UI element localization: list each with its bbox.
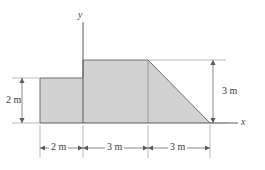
x-axis-label: x [241,117,245,127]
composite-area-fill [40,60,210,123]
shaded-area-group [40,60,210,123]
left-height-label: 2 m [6,95,21,105]
arrowhead-right-segment-1 [78,145,83,150]
arrowhead-left-segment-1 [40,145,45,150]
arrowhead-down-left [19,118,24,123]
arrowhead-up-right [210,60,215,65]
y-axis-label: y [78,10,82,20]
right-height-label: 3 m [222,86,237,96]
arrowhead-left-segment-2 [83,145,88,150]
arrowhead-right-segment-3 [205,145,210,150]
segment-3-label: 3 m [168,142,187,152]
arrowhead-right-segment-2 [143,145,148,150]
segment-2-label: 3 m [105,142,124,152]
arrowhead-left-segment-3 [148,145,153,150]
figure-container: y x 2 m 3 m 2 m 3 m 3 m [0,0,265,170]
segment-1-label: 2 m [49,142,68,152]
arrowhead-down-right [210,118,215,123]
arrowhead-up-left [19,78,24,83]
